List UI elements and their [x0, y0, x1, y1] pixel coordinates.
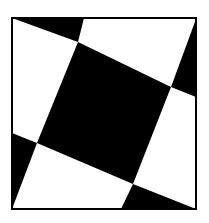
pinwheel-diagram: [0, 0, 209, 223]
